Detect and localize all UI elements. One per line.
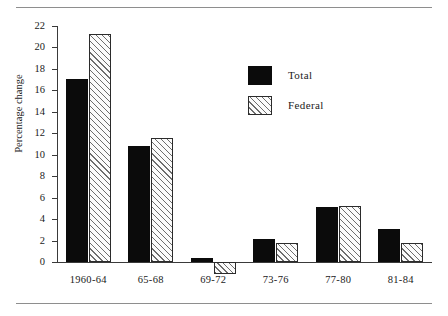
bar-total [316, 207, 338, 262]
legend-item-federal: Federal [248, 96, 368, 120]
bar-federal [339, 206, 361, 262]
bar-total [191, 258, 213, 262]
y-tick-label-8: 8 [5, 171, 45, 181]
y-tick-label-16: 16 [5, 85, 45, 95]
bar-total [128, 146, 150, 262]
bar-group [128, 26, 173, 263]
y-tick-label-18: 18 [5, 64, 45, 74]
bar-federal [214, 262, 236, 274]
legend-label-total: Total [288, 69, 312, 81]
y-tick-label-4: 4 [5, 214, 45, 224]
x-tick-label: 69-72 [182, 274, 245, 285]
bar-total [378, 229, 400, 262]
bottom-divider-rule [16, 303, 432, 304]
chart-legend: Total Federal [248, 66, 368, 126]
bar-group [191, 26, 236, 263]
y-tick-label-10: 10 [5, 150, 45, 160]
x-tick-label: 1960-64 [57, 274, 120, 285]
legend-label-federal: Federal [288, 99, 324, 111]
bar-federal [151, 138, 173, 262]
y-tick-label-12: 12 [5, 128, 45, 138]
y-tick-label-6: 6 [5, 193, 45, 203]
x-tick-label: 65-68 [120, 274, 183, 285]
figure-container: 0246810121416182022 Percentage change To… [0, 0, 448, 316]
bar-group [378, 26, 423, 263]
y-tick-label-14: 14 [5, 107, 45, 117]
y-tick-label-20: 20 [5, 42, 45, 52]
top-divider-rule [16, 7, 432, 8]
bar-group [253, 26, 298, 263]
x-tick-label: 77-80 [307, 274, 370, 285]
x-tick-label: 73-76 [245, 274, 308, 285]
plot-area [57, 26, 432, 263]
bar-group [66, 26, 111, 263]
bar-total [66, 79, 88, 262]
bar-group [316, 26, 361, 263]
legend-swatch-total-icon [248, 66, 272, 85]
y-tick-label-2: 2 [5, 236, 45, 246]
legend-swatch-federal-icon [248, 96, 272, 115]
y-axis-ticks: 0246810121416182022 [0, 0, 57, 316]
bar-federal [89, 34, 111, 262]
y-axis-label: Percentage change [13, 49, 24, 179]
x-tick-label: 81-84 [370, 274, 433, 285]
bar-federal [276, 243, 298, 262]
y-tick-label-0: 0 [5, 257, 45, 267]
y-tick-label-22: 22 [5, 21, 45, 31]
bar-total [253, 239, 275, 262]
bar-federal [401, 243, 423, 262]
legend-item-total: Total [248, 66, 368, 90]
